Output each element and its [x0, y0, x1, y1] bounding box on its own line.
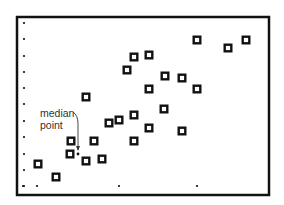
tick-dot: [23, 169, 25, 171]
square-marker: [146, 52, 153, 59]
tick-dot: [23, 55, 25, 57]
square-marker: [179, 75, 186, 82]
tick-dot: [23, 103, 25, 105]
square-marker: [106, 120, 113, 127]
square-marker: [53, 174, 60, 181]
axis-tick-dots: [22, 22, 198, 187]
square-marker: [131, 54, 138, 61]
square-marker: [68, 138, 75, 145]
square-marker: [124, 67, 131, 74]
arrow-head-icon: [76, 146, 80, 151]
tick-dot: [118, 185, 120, 187]
tick-dot: [23, 136, 25, 138]
square-marker: [91, 138, 98, 145]
square-marker: [146, 86, 153, 93]
square-marker: [162, 73, 169, 80]
square-marker: [131, 138, 138, 145]
tick-dot: [23, 71, 25, 73]
annotation-label-line2: point: [40, 119, 63, 131]
median-point: [77, 153, 80, 156]
tick-dot: [196, 185, 198, 187]
square-marker: [83, 158, 90, 165]
tick-dot: [36, 185, 38, 187]
square-marker: [194, 37, 201, 44]
square-marker: [194, 86, 201, 93]
tick-dot: [23, 120, 25, 122]
square-marker: [83, 94, 90, 101]
annotation-label-line1: median: [40, 107, 75, 119]
tick-dot: [23, 87, 25, 89]
square-marker: [131, 112, 138, 119]
square-marker: [67, 151, 74, 158]
scatter-chart: median point: [0, 0, 284, 205]
square-marker: [243, 37, 250, 44]
square-marker: [146, 125, 153, 132]
square-marker: [161, 106, 168, 113]
tick-dot: [23, 153, 25, 155]
square-marker: [116, 117, 123, 124]
tick-dot: [23, 22, 25, 24]
square-marker: [35, 161, 42, 168]
tick-dot: [23, 38, 25, 40]
square-marker: [99, 156, 106, 163]
tick-dot: [22, 185, 24, 187]
square-marker: [225, 45, 232, 52]
square-marker: [179, 128, 186, 135]
